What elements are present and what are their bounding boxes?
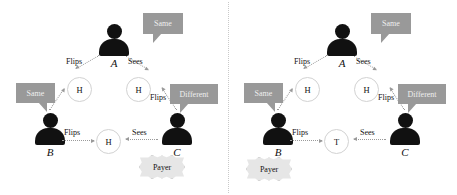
panel-right: A B C H H T Flips Sees Sees Flips Flips …	[228, 0, 457, 195]
bubble-b: Same	[16, 83, 55, 103]
bubble-c: Different	[398, 84, 446, 104]
person-head-icon	[398, 113, 413, 128]
edge-label-flips-a-ab: Flips	[66, 57, 82, 66]
person-head-icon	[335, 24, 350, 39]
person-body-icon	[162, 128, 192, 145]
person-body-icon	[35, 128, 65, 145]
person-a	[325, 24, 359, 56]
edge-label-sees-a-ac: Sees	[356, 57, 371, 66]
edge-label-sees-c-bc: Sees	[132, 128, 147, 137]
bubble-tail-icon	[266, 102, 275, 112]
person-c	[160, 113, 194, 145]
coin-ab: H	[67, 77, 92, 102]
edge-label-flips-b-bc: Flips	[64, 128, 80, 137]
edge-label-sees-a-ac: Sees	[128, 57, 143, 66]
person-head-icon	[271, 113, 286, 128]
person-label-b: B	[263, 146, 293, 158]
panel-left: A B C H H H Flips Sees Sees Flips	[0, 0, 229, 195]
payer-badge: Payer	[139, 155, 185, 179]
person-a	[97, 24, 131, 56]
person-c	[388, 113, 422, 145]
person-body-icon	[327, 39, 357, 56]
arrow-b-to-coin-bc	[290, 140, 322, 141]
arrow-b-to-coin-bc	[62, 140, 94, 141]
person-label-a: A	[99, 57, 129, 69]
edge-label-flips-a-ab: Flips	[294, 57, 310, 66]
person-head-icon	[107, 24, 122, 39]
bubble-c-text: Different	[179, 90, 208, 99]
person-body-icon	[390, 128, 420, 145]
bubble-b-text: Same	[255, 89, 273, 98]
person-head-icon	[170, 113, 185, 128]
bubble-tail-icon	[38, 102, 47, 112]
bubble-a-text: Same	[382, 19, 400, 28]
coin-flip-protocol-figure: A B C H H H Flips Sees Sees Flips	[0, 0, 457, 195]
payer-label: Payer	[153, 163, 171, 172]
person-body-icon	[263, 128, 293, 145]
edge-label-flips-b-bc: Flips	[292, 128, 308, 137]
bubble-c-text: Different	[407, 90, 436, 99]
coin-ab: H	[295, 77, 320, 102]
person-label-c: C	[390, 146, 420, 158]
payer-label: Payer	[260, 165, 278, 174]
coin-bc: T	[324, 129, 349, 154]
person-label-a: A	[327, 57, 357, 69]
person-head-icon	[43, 113, 58, 128]
bubble-tail-icon	[180, 103, 189, 113]
edge-label-flips-c-ac: Flips	[378, 93, 394, 102]
coin-ac: H	[354, 77, 379, 102]
bubble-c: Different	[170, 84, 218, 104]
arrow-c-to-coin-bc	[126, 139, 158, 140]
bubble-a-text: Same	[154, 19, 172, 28]
edge-label-flips-c-ac: Flips	[150, 93, 166, 102]
coin-bc: H	[96, 129, 121, 154]
arrow-c-to-coin-bc	[354, 139, 386, 140]
person-body-icon	[99, 39, 129, 56]
bubble-a: Same	[371, 13, 411, 34]
edge-label-sees-c-bc: Sees	[360, 128, 375, 137]
coin-ac: H	[126, 77, 151, 102]
bubble-b-text: Same	[27, 89, 45, 98]
bubble-tail-icon	[153, 33, 162, 43]
payer-badge: Payer	[246, 157, 292, 181]
bubble-b: Same	[244, 83, 283, 103]
person-label-b: B	[35, 146, 65, 158]
bubble-tail-icon	[381, 33, 390, 43]
bubble-a: Same	[143, 13, 183, 34]
person-label-c: C	[162, 146, 192, 158]
bubble-tail-icon	[408, 103, 417, 113]
